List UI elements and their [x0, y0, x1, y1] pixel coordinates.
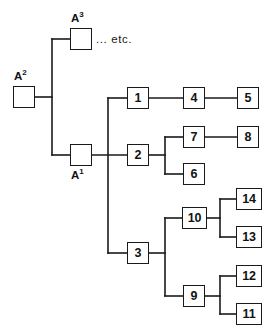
node-box-12[interactable]: 12: [236, 265, 262, 287]
node-box-10[interactable]: 10: [182, 207, 207, 229]
node-box-2[interactable]: 2: [127, 144, 149, 166]
label-a3: A3: [71, 13, 84, 25]
node-box-6[interactable]: 6: [183, 163, 205, 185]
node-box-13[interactable]: 13: [236, 226, 262, 248]
label-a2-superscript: 2: [22, 68, 26, 77]
node-box-a2[interactable]: [13, 86, 35, 108]
node-box-5[interactable]: 5: [237, 87, 259, 109]
node-box-a3[interactable]: [70, 28, 92, 50]
label-a1: A1: [71, 170, 84, 182]
node-box-8[interactable]: 8: [237, 126, 259, 148]
etc-annotation: ... etc.: [96, 34, 132, 46]
label-a3-superscript: 3: [79, 10, 83, 19]
tree-connector-lines: [0, 0, 273, 334]
label-a1-superscript: 1: [79, 167, 83, 176]
node-box-a1[interactable]: [70, 144, 92, 166]
label-a2: A2: [14, 71, 27, 83]
node-box-11[interactable]: 11: [236, 303, 262, 325]
tree-diagram: 1 4 5 2 7 8 6 3 10 14 13 9 12 11 A3 A2 A…: [0, 0, 273, 334]
node-box-9[interactable]: 9: [183, 285, 205, 307]
node-box-1[interactable]: 1: [127, 87, 149, 109]
node-box-3[interactable]: 3: [127, 242, 149, 264]
node-box-14[interactable]: 14: [236, 188, 262, 210]
node-box-4[interactable]: 4: [183, 87, 205, 109]
node-box-7[interactable]: 7: [183, 126, 205, 148]
